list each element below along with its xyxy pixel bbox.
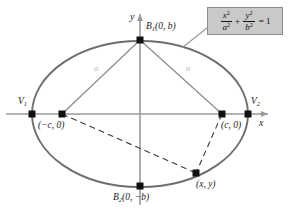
x-axis-label: x [259,118,263,128]
equation-numerator-2-exponent: 2 [249,10,252,16]
segment-right-focus-to-top-covertex [140,40,222,114]
ellipse-standard-equation: x2 a2 + y2 b2 = 1 [220,10,271,31]
point-general-xy [193,170,200,177]
dashed-segment-left-focus-to-point [62,114,196,173]
callout-leader-line [183,28,207,47]
label-right-focus: (c, 0) [221,121,241,131]
label-segment-a-right: a [186,64,190,73]
equation-second-fraction: y2 b2 [243,10,255,31]
label-bottom-covertex: B2(0, −b) [113,193,149,203]
point-top-covertex [137,37,144,44]
point-right-focus [219,111,226,118]
label-right-vertex-subscript: 2 [257,100,260,107]
point-right-vertex [245,111,252,118]
label-top-covertex-coords: (0, b) [155,21,176,31]
label-bottom-covertex-coords: (0, −b) [122,192,149,202]
equation-plus-operator: + [235,16,240,26]
equation-denominator-2-exponent: 2 [250,22,253,28]
label-left-vertex: V1 [18,97,27,107]
equation-numerator-2: y2 [243,10,254,20]
equation-numerator-1-exponent: 2 [227,10,230,16]
point-bottom-covertex [137,183,144,190]
equation-first-fraction: x2 a2 [221,10,233,31]
equation-numerator-1: x2 [221,10,232,20]
point-left-focus [59,111,66,118]
equation-callout-box: x2 a2 + y2 b2 = 1 [207,7,283,35]
equation-denominator-2: b2 [243,21,255,32]
label-left-focus: (−c, 0) [38,121,64,131]
label-segment-a-left: a [94,64,98,73]
equation-denominator-1-exponent: 2 [227,22,230,28]
label-top-covertex: B1(0, b) [146,22,176,32]
point-left-vertex [29,111,36,118]
label-right-vertex: V2 [251,97,260,107]
equation-denominator-1: a2 [221,21,233,32]
y-axis-arrowhead [137,14,143,21]
label-left-vertex-subscript: 1 [24,100,27,107]
x-axis [6,111,268,117]
label-general-point: (x, y) [196,180,216,190]
segment-left-focus-to-top-covertex [62,40,140,114]
y-axis-label: y [130,12,134,22]
ellipse-figure: x y B1(0, b) B2(0, −b) V1 V2 (−c, 0) (c,… [0,0,291,217]
equation-right-hand-side: = 1 [259,16,271,26]
